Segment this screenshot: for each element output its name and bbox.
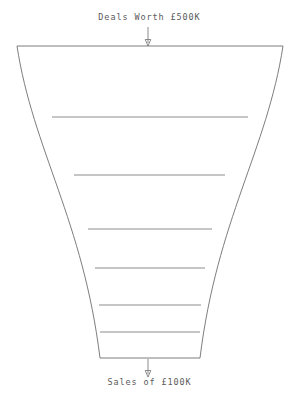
- inflow-arrow-icon: [145, 27, 151, 46]
- funnel-diagram: Sales Funnel Deals Worth £500K: [0, 0, 299, 409]
- funnel-dividers: [52, 117, 248, 332]
- funnel-graphic: [0, 0, 299, 409]
- outflow-arrow-icon: [145, 359, 151, 377]
- funnel-exit-label: Sales of £100K: [0, 377, 299, 387]
- funnel-outline: [17, 46, 283, 358]
